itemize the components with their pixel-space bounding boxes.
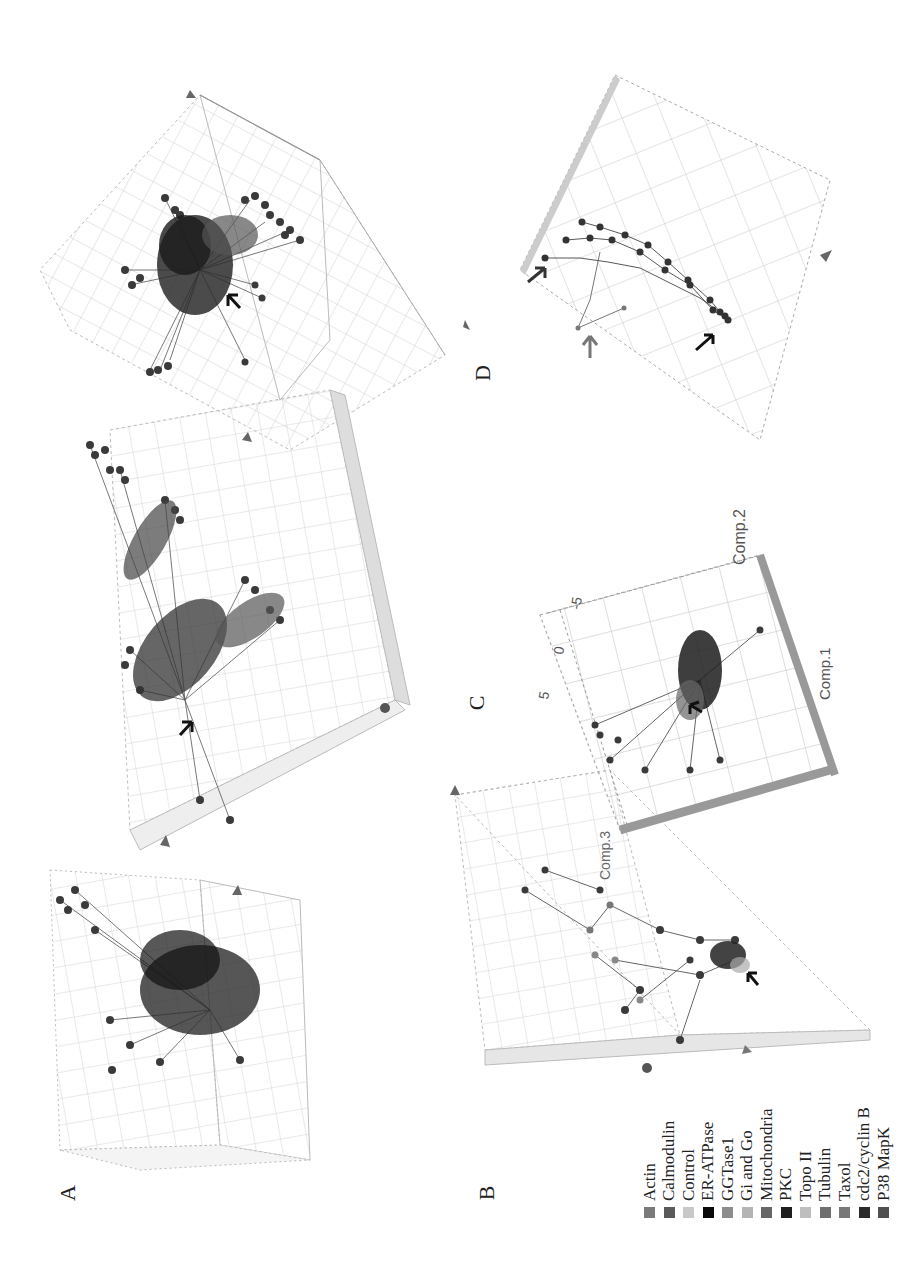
- arrow-annotation: [583, 336, 597, 358]
- legend-item: cdc2/cyclin B: [855, 968, 875, 1218]
- legend-swatch: [820, 1207, 831, 1218]
- legend-item: Mitochondria: [757, 968, 777, 1218]
- panel-label-d: D: [470, 365, 496, 381]
- legend-item: GGTase1: [718, 968, 738, 1218]
- legend-swatch: [722, 1207, 733, 1218]
- legend-item: Taxol: [835, 968, 855, 1218]
- legend-swatch: [781, 1207, 792, 1218]
- panel-a-middle-plot: [86, 390, 410, 850]
- legend-list: Actin Calmodulin Control ER-ATPase GGTas…: [640, 968, 894, 1218]
- panel-d-plot: [463, 75, 832, 440]
- legend-item: Control: [679, 968, 699, 1218]
- legend-item: PKC: [777, 968, 797, 1218]
- legend-item: Calmodulin: [660, 968, 680, 1218]
- legend-item: Gi and Go: [738, 968, 758, 1218]
- legend-label: GGTase1: [718, 1137, 738, 1201]
- legend-label: Tubulin: [815, 1148, 835, 1201]
- legend-swatch: [839, 1207, 850, 1218]
- legend-swatch: [761, 1207, 772, 1218]
- svg-text:-5: -5: [567, 595, 585, 610]
- panel-label-b: B: [474, 1186, 500, 1201]
- legend-label: cdc2/cyclin B: [854, 1107, 874, 1201]
- svg-text:5: 5: [535, 690, 552, 701]
- axis-label-comp1: Comp.1: [816, 647, 833, 700]
- legend-label: Topo II: [796, 1151, 816, 1201]
- legend-item: Actin: [640, 968, 660, 1218]
- legend-item: Topo II: [796, 968, 816, 1218]
- legend-swatch: [859, 1207, 870, 1218]
- legend-label: ER-ATPase: [698, 1122, 718, 1201]
- legend-item: Tubulin: [816, 968, 836, 1218]
- axis-label-comp2: Comp.2: [731, 509, 748, 565]
- figure: 5 0 -5 Comp.3 Comp.2 Comp.1: [0, 0, 902, 1272]
- legend-item: P38 MapK: [874, 968, 894, 1218]
- legend-label: Taxol: [835, 1163, 855, 1201]
- panel-label-a: A: [55, 1185, 81, 1201]
- axis-label-comp3: Comp.3: [597, 831, 613, 880]
- panel-a-bottom-plot: [50, 870, 310, 1170]
- legend-label: Mitochondria: [757, 1108, 777, 1201]
- legend-label: PKC: [776, 1168, 796, 1201]
- legend-swatch: [703, 1207, 714, 1218]
- legend-item: ER-ATPase: [699, 968, 719, 1218]
- legend-label: Control: [679, 1149, 699, 1201]
- legend-swatch: [800, 1207, 811, 1218]
- legend-label: Actin: [640, 1163, 660, 1201]
- legend: Actin Calmodulin Control ER-ATPase GGTas…: [640, 968, 902, 1218]
- legend-swatch: [644, 1207, 655, 1218]
- panel-label-c: C: [464, 696, 490, 711]
- legend-swatch: [664, 1207, 675, 1218]
- legend-label: P38 MapK: [874, 1127, 894, 1201]
- legend-swatch: [878, 1207, 889, 1218]
- legend-label: Gi and Go: [737, 1130, 757, 1201]
- legend-swatch: [742, 1207, 753, 1218]
- legend-label: Calmodulin: [659, 1121, 679, 1201]
- panel-a-top-plot: [40, 90, 445, 450]
- legend-swatch: [683, 1207, 694, 1218]
